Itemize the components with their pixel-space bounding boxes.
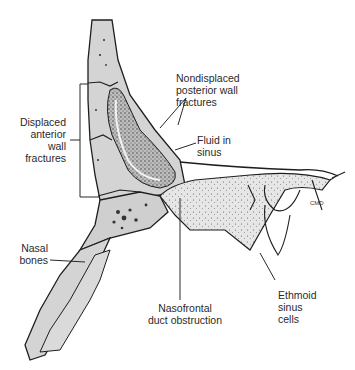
- label-nondisplaced-posterior-wall-fractures: Nondisplaced posterior wall fractures: [176, 72, 240, 108]
- ethmoid-region: [160, 173, 330, 250]
- label-displaced-anterior-wall-fractures: Displaced anterior wall fractures: [8, 116, 66, 164]
- label-nasofrontal-duct-obstruction: Nasofrontal duct obstruction: [130, 302, 240, 326]
- cmd-mark: CMD: [310, 200, 324, 206]
- label-fluid-in-sinus: Fluid in sinus: [197, 134, 231, 158]
- nasofrontal-block: [80, 192, 168, 250]
- fluid-leader: [175, 143, 196, 150]
- label-ethmoid-sinus-cells: Ethmoid sinus cells: [278, 289, 317, 325]
- label-nasal-bones: Nasal bones: [6, 242, 48, 266]
- ethmoid-leader: [260, 253, 275, 280]
